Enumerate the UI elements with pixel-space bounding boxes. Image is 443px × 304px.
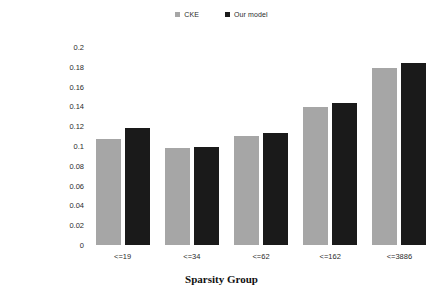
bar-group (157, 47, 226, 245)
x-axis-tick-labels: <=19 <=34 <=62 <=162 <=3886 (88, 252, 434, 261)
bar-chart: CKE Our model NDCG@20 0.2 0.18 0.16 0.14… (0, 0, 443, 304)
bar-group (296, 47, 365, 245)
x-tick-label: <=19 (88, 252, 157, 261)
y-tick-label: 0.1 (74, 142, 84, 151)
bar-our-model (194, 147, 219, 245)
y-tick-label: 0.06 (69, 181, 84, 190)
y-tick-label: 0.12 (69, 122, 84, 131)
x-tick-label: <=3886 (365, 252, 434, 261)
x-tick-label: <=162 (296, 252, 365, 261)
y-tick-label: 0.16 (69, 82, 84, 91)
bar-group (226, 47, 295, 245)
y-tick-label: 0.14 (69, 102, 84, 111)
bar-group (365, 47, 434, 245)
legend-label-cke: CKE (184, 11, 199, 18)
legend-item-our-model: Our model (225, 11, 268, 18)
legend-item-cke: CKE (175, 11, 199, 18)
y-tick-label: 0.18 (69, 62, 84, 71)
y-tick-label: 0.2 (74, 43, 84, 52)
chart-legend: CKE Our model (0, 11, 443, 18)
bar-cke (372, 68, 397, 245)
bar-group (88, 47, 157, 245)
y-tick-label: 0.02 (69, 221, 84, 230)
bar-cke (165, 148, 190, 246)
bars-layer (88, 47, 434, 245)
bar-our-model (263, 133, 288, 245)
y-axis-tick-labels: 0.2 0.18 0.16 0.14 0.12 0.1 0.08 0.06 0.… (56, 47, 84, 245)
plot-area (88, 47, 434, 245)
legend-label-our-model: Our model (234, 11, 268, 18)
bar-cke (234, 136, 259, 245)
bar-cke (96, 139, 121, 245)
x-tick-label: <=62 (226, 252, 295, 261)
bar-our-model (401, 63, 426, 245)
x-tick-label: <=34 (157, 252, 226, 261)
bar-our-model (332, 103, 357, 245)
x-axis-title: Sparsity Group (0, 273, 443, 285)
y-tick-label: 0.08 (69, 161, 84, 170)
bar-cke (303, 107, 328, 245)
y-tick-label: 0.04 (69, 201, 84, 210)
legend-swatch-our-model (225, 12, 230, 17)
bar-our-model (125, 128, 150, 245)
legend-swatch-cke (175, 12, 180, 17)
y-tick-label: 0 (80, 241, 84, 250)
